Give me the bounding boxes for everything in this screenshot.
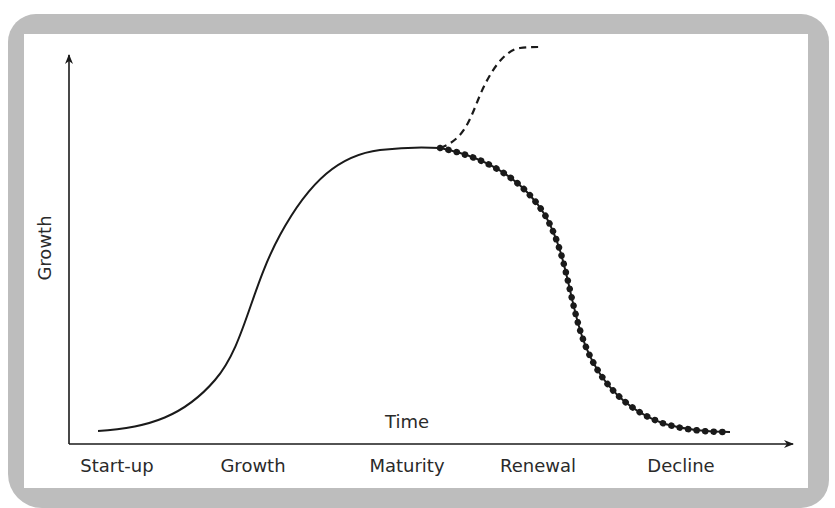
decline-curve-beads <box>440 148 730 432</box>
growth-curve-solid <box>98 147 440 431</box>
stage-label-start-up: Start-up <box>80 455 153 476</box>
stage-label-growth: Growth <box>220 455 285 476</box>
stage-label-maturity: Maturity <box>369 455 444 476</box>
decline-curve-dotted <box>440 148 730 432</box>
stage-label-renewal: Renewal <box>500 455 576 476</box>
y-axis-label: Growth <box>34 215 55 280</box>
stage-label-decline: Decline <box>647 455 714 476</box>
x-axis-label: Time <box>385 411 429 432</box>
renewal-curve-dashed <box>440 47 542 148</box>
